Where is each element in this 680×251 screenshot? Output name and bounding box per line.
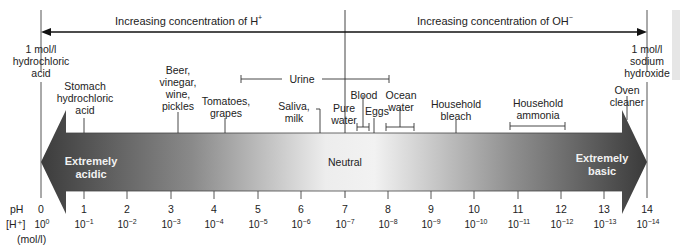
h-concentration-tick: 10−1	[64, 218, 104, 230]
label-neutral: Neutral	[328, 156, 362, 168]
h-concentration-tick: 100	[22, 218, 62, 230]
h-concentration-tick: 10−6	[281, 218, 321, 230]
increasing-oh-label: Increasing concentration of OH−	[417, 14, 573, 27]
arrow-right-head-icon	[637, 28, 647, 36]
h-concentration-tick: 10−5	[238, 218, 278, 230]
h-concentration-tick: 10−14	[628, 218, 668, 230]
ph-tick: 0	[26, 203, 56, 215]
axis-label-unit: (mol/l)	[17, 233, 46, 245]
h-concentration-tick: 10−13	[585, 218, 625, 230]
axis-ticks	[84, 191, 604, 199]
label-saliva: Saliva,milk	[272, 100, 316, 124]
ph-tick: 7	[330, 203, 360, 215]
ph-tick: 1	[69, 203, 99, 215]
ph-tick: 3	[156, 203, 186, 215]
h-concentration-tick: 10−2	[107, 218, 147, 230]
label-tomatoes: Tomatoes,grapes	[196, 95, 256, 119]
ph-tick: 9	[416, 203, 446, 215]
label-oven-cleaner: Ovencleaner	[606, 84, 648, 108]
label-blood: Blood	[347, 89, 381, 101]
label-extremely-acidic: Extremelyacidic	[56, 155, 126, 181]
h-concentration-tick: 10−9	[411, 218, 451, 230]
endpoint-hydrochloric-acid: 1 mol/lhydrochloricacid	[4, 43, 78, 79]
ph-tick: 11	[503, 203, 533, 215]
ph-tick: 6	[286, 203, 316, 215]
label-urine: Urine	[284, 73, 320, 85]
label-stomach-acid: Stomachhydrochloricacid	[50, 80, 120, 116]
page-edge-strip	[672, 10, 680, 80]
ph-tick: 10	[459, 203, 489, 215]
ph-tick: 13	[589, 203, 619, 215]
h-concentration-tick: 10−10	[456, 218, 496, 230]
label-household-ammonia: Householdammonia	[506, 97, 570, 121]
h-concentration-tick: 10−11	[499, 218, 539, 230]
endpoint-sodium-hydroxide: 1 mol/lsodiumhydroxide	[612, 43, 680, 79]
label-pure-water: Purewater	[327, 102, 361, 126]
arrow-left-head-icon	[41, 28, 51, 36]
ph-tick: 8	[373, 203, 403, 215]
h-concentration-tick: 10−8	[368, 218, 408, 230]
ph-tick: 14	[632, 203, 662, 215]
label-household-bleach: Householdbleach	[424, 98, 488, 122]
h-concentration-tick: 10−7	[325, 218, 365, 230]
label-extremely-basic: Extremelybasic	[570, 152, 634, 178]
axis-label-ph: pH	[10, 203, 23, 215]
ph-tick: 4	[199, 203, 229, 215]
ph-tick: 5	[243, 203, 273, 215]
h-concentration-tick: 10−4	[194, 218, 234, 230]
ph-tick: 12	[546, 203, 576, 215]
label-ocean-water: Oceanwater	[382, 89, 420, 113]
ph-tick: 2	[112, 203, 142, 215]
h-concentration-tick: 10−3	[151, 218, 191, 230]
h-concentration-tick: 10−12	[542, 218, 582, 230]
increasing-h-label: Increasing concentration of H+	[115, 14, 262, 27]
